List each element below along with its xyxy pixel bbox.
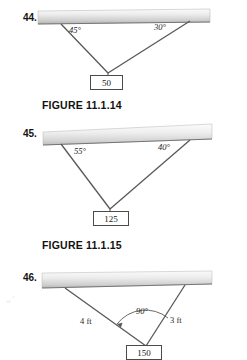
scan-smudge <box>6 300 11 303</box>
weight-box-46: 150 <box>126 345 162 360</box>
ceiling-bar-46 <box>42 271 212 288</box>
length-label-right-46: 3 ft <box>170 315 182 325</box>
scan-smudge <box>12 296 15 298</box>
length-label-left-46: 4 ft <box>80 316 92 326</box>
angle-label-apex-46: 90° <box>136 306 148 316</box>
cable-left-46 <box>65 288 146 346</box>
